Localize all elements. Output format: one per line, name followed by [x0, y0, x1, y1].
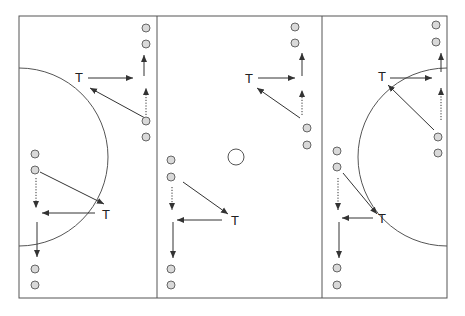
center-spot	[228, 149, 244, 165]
ball-icon	[31, 150, 39, 158]
ball-icon	[291, 23, 299, 31]
target-label: T	[231, 213, 239, 228]
ball-icon	[167, 156, 175, 164]
target-label: T	[378, 211, 386, 226]
pass-arrow	[257, 88, 300, 118]
pass-arrow	[388, 85, 434, 130]
ball-icon	[142, 40, 150, 48]
ball-icon	[434, 149, 442, 157]
target-label: T	[102, 207, 110, 222]
ball-icon	[31, 265, 39, 273]
ball-icon	[167, 173, 175, 181]
target-label: T	[378, 69, 386, 84]
ball-icon	[31, 281, 39, 289]
pass-arrow	[183, 182, 228, 214]
ball-icon	[333, 147, 341, 155]
hockey-drill-diagram: TTTTTT	[0, 0, 465, 316]
right-circle-arc	[358, 68, 447, 246]
ball-icon	[142, 133, 150, 141]
ball-icon	[303, 124, 311, 132]
target-label: T	[245, 71, 253, 86]
ball-icon	[432, 38, 440, 46]
ball-icon	[333, 163, 341, 171]
pitch	[19, 16, 447, 298]
target-label: T	[75, 70, 83, 85]
ball-icon	[303, 141, 311, 149]
pass-arrow	[90, 88, 145, 118]
ball-icon	[167, 281, 175, 289]
ball-icon	[434, 133, 442, 141]
ball-icon	[432, 21, 440, 29]
ball-icon	[167, 265, 175, 273]
pass-arrow	[343, 173, 377, 214]
ball-icon	[333, 264, 341, 272]
ball-icon	[142, 24, 150, 32]
ball-icon	[31, 166, 39, 174]
ball-icon	[142, 117, 150, 125]
ball-icon	[291, 39, 299, 47]
pass-arrow	[40, 172, 104, 204]
ball-icon	[333, 281, 341, 289]
